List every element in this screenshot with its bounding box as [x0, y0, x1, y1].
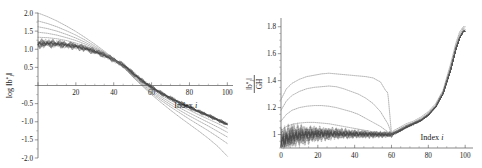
right-bundle-curve	[281, 31, 465, 144]
left-x-axis-title: Index i	[174, 101, 198, 110]
right-series-ratio-curve-b	[281, 28, 465, 134]
right-x-tick-label: 0	[279, 152, 283, 160]
right-bundle-curve	[281, 31, 465, 142]
right-y-tick-label: 1.8	[267, 23, 276, 31]
right-bundle-curve	[281, 31, 465, 146]
right-x-tick-label: 20	[314, 152, 322, 160]
figure-container: -2.0-1.5-1.0-0.50.51.01.52.020406080100I…	[0, 0, 482, 168]
left-plot-svg: -2.0-1.5-1.0-0.50.51.01.52.020406080100I…	[0, 0, 241, 168]
left-bundle-curve	[38, 40, 227, 124]
right-bundle-curve	[281, 31, 465, 143]
left-series-curve-e	[38, 37, 227, 128]
svg-text:‖b*i‖: ‖b*i‖	[245, 78, 255, 90]
left-bundle-curve	[38, 42, 227, 125]
right-bundle-curve	[281, 31, 465, 143]
right-bundle-curve	[281, 31, 465, 144]
left-y-tick-label: 0.5	[24, 64, 33, 72]
right-x-axis-title: Index i	[421, 133, 445, 142]
right-bundle-curve	[281, 31, 465, 147]
right-bundle-curve	[281, 31, 465, 144]
left-bundle-curve	[38, 42, 227, 125]
left-bundle-curve	[38, 43, 227, 125]
chart-panel-right: 11.21.41.61.8020406080100Index i‖b*i‖GH	[241, 0, 482, 168]
right-y-tick-label: 1.6	[267, 50, 276, 58]
right-bundle-curve	[281, 31, 465, 143]
left-x-tick-label: 100	[222, 89, 233, 97]
right-y-tick-label: 1	[272, 131, 276, 139]
left-y-tick-label: 1.0	[24, 46, 33, 54]
right-bundle-curve	[281, 31, 465, 143]
left-curve-bundle	[38, 38, 227, 125]
right-bundle-curve	[281, 31, 465, 144]
left-y-tick-label: -2.0	[22, 155, 34, 163]
left-y-tick-label: -1.5	[22, 136, 34, 144]
right-bundle-curve	[281, 31, 465, 144]
right-bundle-curve	[281, 31, 465, 144]
right-x-tick-label: 100	[460, 152, 471, 160]
right-x-tick-label: 80	[425, 152, 433, 160]
right-y-axis-title: ‖b*i‖GH	[245, 75, 264, 93]
left-y-tick-label: -0.5	[22, 100, 34, 108]
right-bundle-curve	[281, 31, 465, 144]
right-bundle-curve	[281, 31, 465, 145]
svg-text:log ‖b*i‖: log ‖b*i‖	[5, 73, 15, 99]
right-bundle-curve	[281, 31, 465, 143]
left-y-axis-title: log ‖b*i‖	[5, 73, 15, 99]
right-x-tick-label: 40	[351, 152, 359, 160]
right-bundle-curve	[281, 31, 465, 143]
right-bundle-curve	[281, 31, 465, 144]
right-bundle-curve	[281, 31, 465, 146]
left-y-tick-label: 2.0	[24, 10, 33, 18]
left-bundle-curve	[38, 41, 227, 125]
right-series-ratio-curve-a	[281, 27, 465, 133]
right-curve-bundle	[281, 31, 465, 149]
chart-panel-left: -2.0-1.5-1.0-0.50.51.01.52.020406080100I…	[0, 0, 241, 168]
right-bundle-curve	[281, 31, 465, 147]
left-x-tick-label: 80	[186, 89, 194, 97]
right-bundle-curve	[281, 31, 465, 142]
left-series-curve-b	[38, 21, 227, 144]
right-bundle-curve	[281, 31, 465, 143]
left-x-tick-label: 40	[110, 89, 118, 97]
left-bundle-curve	[38, 41, 227, 124]
right-y-tick-label: 1.2	[267, 104, 276, 112]
left-bundle-curve	[38, 41, 227, 125]
right-bundle-curve	[281, 31, 465, 148]
right-plot-svg: 11.21.41.61.8020406080100Index i‖b*i‖GH	[241, 0, 482, 168]
right-series-ratio-curve-c	[281, 29, 465, 134]
right-bundle-curve	[281, 31, 465, 144]
left-y-tick-label: 1.5	[24, 28, 33, 36]
left-x-tick-label: 20	[72, 89, 80, 97]
left-y-tick-label: -1.0	[22, 118, 34, 126]
right-x-tick-label: 60	[388, 152, 396, 160]
right-bundle-curve	[281, 31, 465, 144]
svg-text:GH: GH	[255, 78, 264, 89]
right-y-tick-label: 1.4	[267, 77, 276, 85]
right-bundle-curve	[281, 31, 465, 145]
right-bundle-curve	[281, 31, 465, 142]
right-series-ratio-curve-d	[281, 31, 465, 135]
